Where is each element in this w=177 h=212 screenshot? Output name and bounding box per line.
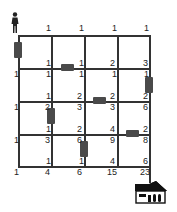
- path-count: 1: [46, 157, 51, 166]
- path-count: 15: [107, 168, 117, 177]
- path-count: 1: [14, 70, 19, 79]
- path-count: 2: [143, 125, 148, 134]
- path-count: 1: [46, 70, 51, 79]
- path-count: 23: [140, 168, 150, 177]
- path-count: 1: [79, 70, 84, 79]
- path-count: 6: [77, 168, 82, 177]
- path-count: 1: [112, 70, 117, 79]
- path-count: 3: [110, 103, 115, 112]
- path-count: 9: [110, 136, 115, 145]
- path-count: 1: [79, 157, 84, 166]
- blocked-road-marker: [61, 64, 74, 71]
- path-count: 3: [143, 59, 148, 68]
- person-icon: [10, 12, 20, 34]
- path-count: 1: [79, 24, 84, 33]
- house-icon: [134, 180, 168, 204]
- path-count: 2: [110, 92, 115, 101]
- grid-col-3: [117, 35, 119, 167]
- path-count: 8: [143, 136, 148, 145]
- path-count: 2: [45, 103, 50, 112]
- path-count: 3: [77, 103, 82, 112]
- path-count: 3: [45, 136, 50, 145]
- path-count: 6: [77, 136, 82, 145]
- path-count: 1: [46, 125, 51, 134]
- path-count: 2: [143, 92, 148, 101]
- path-count: 6: [143, 103, 148, 112]
- path-count: 1: [144, 24, 149, 33]
- path-count: 4: [110, 125, 115, 134]
- blocked-road-marker: [93, 97, 106, 104]
- path-count: 2: [110, 59, 115, 68]
- path-count: 1: [79, 59, 84, 68]
- blocked-road-marker: [126, 130, 139, 137]
- path-count: 6: [143, 157, 148, 166]
- path-count: 1: [14, 103, 19, 112]
- path-count: 1: [144, 70, 149, 79]
- path-count: 2: [77, 92, 82, 101]
- path-count: 1: [46, 92, 51, 101]
- grid-col-4: [149, 35, 151, 183]
- path-grid-diagram: 1 1 1 1 1 1 2 3 1 1 1 1 1 1 2 2 2 1 2 3 …: [0, 0, 177, 212]
- path-count: 1: [46, 24, 51, 33]
- blocked-road-marker: [14, 42, 22, 58]
- path-count: 4: [110, 157, 115, 166]
- path-count: 1: [112, 24, 117, 33]
- grid-col-1: [51, 35, 53, 167]
- path-count: 4: [45, 168, 50, 177]
- path-count: 1: [14, 168, 19, 177]
- path-count: 1: [14, 136, 19, 145]
- path-count: 2: [77, 125, 82, 134]
- path-count: 1: [46, 59, 51, 68]
